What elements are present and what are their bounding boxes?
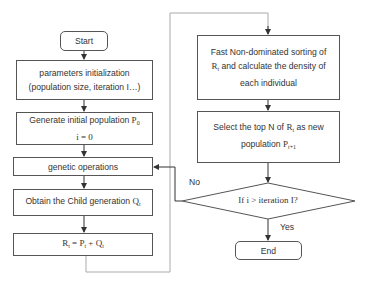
- select-line1: Select the top N of Rt as new: [213, 120, 323, 137]
- obtain-child-label: Obtain the Child generation Qt: [25, 194, 140, 211]
- select-top-box: Select the top N of Rt as new population…: [197, 111, 340, 163]
- end-label: End: [261, 244, 276, 258]
- start-node: Start: [60, 31, 108, 51]
- end-node: End: [235, 241, 302, 260]
- combine-formula: Rt = Pt + Qt: [62, 236, 104, 253]
- genetic-operations-box: genetic operations: [13, 157, 153, 176]
- edge-label-yes: Yes: [280, 222, 294, 232]
- start-label: Start: [75, 34, 93, 48]
- params-init-line2: (population size, iteration I…): [29, 80, 141, 94]
- fast-sort-box: Fast Non-dominated sorting of Rt and cal…: [197, 35, 340, 100]
- params-init-line1: parameters initialization: [39, 66, 129, 80]
- fast-sort-line3: each individual: [240, 76, 297, 90]
- select-line2: population Pt+1: [241, 137, 296, 154]
- edge-label-no: No: [189, 177, 200, 187]
- generate-population-box: Generate initial population P0 i = 0: [16, 112, 153, 145]
- decision-label: If i > iteration I?: [218, 195, 318, 205]
- generate-line1: Generate initial population P0: [29, 113, 139, 130]
- obtain-child-box: Obtain the Child generation Qt: [13, 189, 153, 216]
- fast-sort-line1: Fast Non-dominated sorting of: [211, 45, 327, 59]
- fast-sort-line2: Rt and calculate the density of: [211, 59, 325, 76]
- combine-box: Rt = Pt + Qt: [13, 233, 153, 256]
- connector-no-feedback: [154, 167, 182, 201]
- generate-line2: i = 0: [76, 130, 93, 144]
- params-init-box: parameters initialization (population si…: [16, 60, 153, 100]
- genetic-operations-label: genetic operations: [48, 160, 118, 174]
